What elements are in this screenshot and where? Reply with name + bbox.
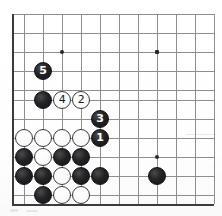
grid-line-vertical: [176, 14, 177, 204]
black-stone[interactable]: [15, 167, 33, 185]
black-stone[interactable]: [91, 167, 109, 185]
move-number-label: 3: [96, 113, 103, 124]
scan-artifact: [186, 134, 216, 135]
move-number-label: 1: [96, 132, 103, 143]
scan-artifact: [26, 210, 38, 212]
grid-line-vertical: [138, 14, 139, 204]
black-stone[interactable]: [53, 148, 71, 166]
white-stone[interactable]: [34, 148, 52, 166]
go-board[interactable]: 12345: [0, 0, 222, 216]
move-1-black[interactable]: 1: [91, 129, 109, 147]
white-stone[interactable]: [34, 129, 52, 147]
move-3-black[interactable]: 3: [91, 110, 109, 128]
move-2-white[interactable]: 2: [72, 91, 90, 109]
star-point-lower-right: [155, 155, 159, 159]
white-stone[interactable]: [72, 129, 90, 147]
black-stone[interactable]: [34, 167, 52, 185]
board-edge-bottom: [12, 204, 214, 206]
move-4-white[interactable]: 4: [53, 91, 71, 109]
black-stone[interactable]: [15, 148, 33, 166]
scan-artifact: [10, 209, 18, 212]
white-stone[interactable]: [72, 186, 90, 204]
white-stone[interactable]: [15, 129, 33, 147]
black-stone[interactable]: [72, 148, 90, 166]
move-number-label: 2: [78, 94, 85, 105]
grid-line-vertical: [119, 14, 120, 204]
board-edge-left: [12, 14, 14, 204]
black-stone[interactable]: [34, 186, 52, 204]
star-point-upper-left: [60, 50, 64, 54]
black-stone[interactable]: [72, 167, 90, 185]
white-stone[interactable]: [53, 129, 71, 147]
black-stone[interactable]: [34, 91, 52, 109]
white-stone[interactable]: [53, 167, 71, 185]
white-stone[interactable]: [53, 186, 71, 204]
move-number-label: 5: [39, 65, 46, 76]
grid-line-vertical: [214, 14, 215, 204]
move-number-label: 4: [59, 94, 66, 105]
black-stone[interactable]: [148, 167, 166, 185]
move-5-black[interactable]: 5: [34, 62, 52, 80]
go-board-diagram: 12345: [0, 0, 222, 216]
grid-line-vertical: [195, 14, 196, 204]
star-point-upper-right: [155, 50, 159, 54]
